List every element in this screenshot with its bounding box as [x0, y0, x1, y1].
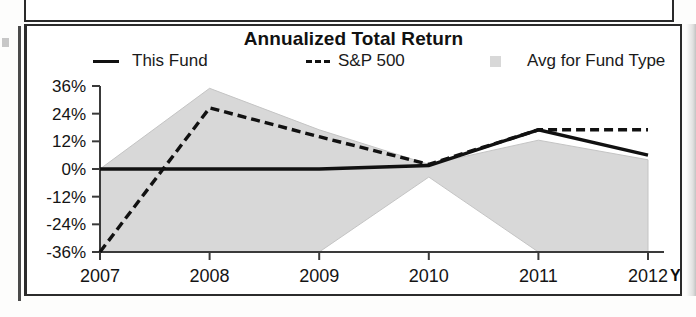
svg-text:2011: 2011 [519, 266, 558, 286]
chart-panel: Annualized Total Return This Fund S&P 50… [24, 24, 682, 296]
svg-text:12%: 12% [52, 132, 86, 151]
adjacent-panel-fragment [24, 0, 674, 22]
svg-text:YTD: YTD [670, 267, 682, 284]
svg-text:2012: 2012 [628, 266, 668, 286]
svg-text:2008: 2008 [190, 266, 230, 286]
svg-text:0%: 0% [61, 160, 86, 179]
svg-text:-12%: -12% [46, 188, 86, 207]
scan-artifact-speck [2, 38, 9, 47]
scan-right-bleed [686, 24, 696, 296]
svg-text:2010: 2010 [409, 266, 449, 286]
plot-area: 36%24%12%0%-12%-24%-36%20072008200920102… [27, 26, 682, 296]
svg-text:2007: 2007 [80, 266, 120, 286]
svg-text:-24%: -24% [46, 215, 86, 234]
scan-left-edge [18, 26, 21, 301]
svg-text:-36%: -36% [46, 243, 86, 262]
svg-text:2009: 2009 [299, 266, 339, 286]
chart-plot-svg: 36%24%12%0%-12%-24%-36%20072008200920102… [27, 26, 682, 296]
svg-text:24%: 24% [52, 105, 86, 124]
svg-text:36%: 36% [52, 77, 86, 96]
scanned-page: Annualized Total Return This Fund S&P 50… [0, 0, 696, 317]
